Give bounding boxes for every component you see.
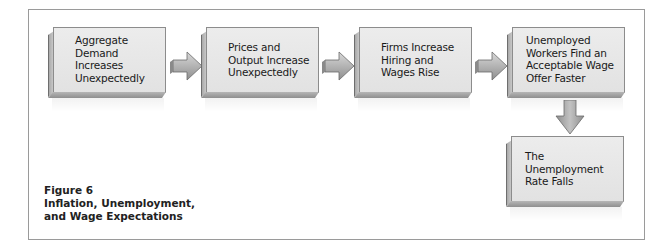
box-bottom-bevel (201, 92, 319, 98)
flow-box-unemployment-rate: The Unemployment Rate Falls (506, 136, 624, 207)
box-bottom-bevel (48, 92, 166, 98)
box-bottom-bevel (506, 201, 624, 207)
box-shadow (358, 98, 470, 112)
box-bottom-bevel (507, 92, 625, 98)
flow-box-unemployed-workers: Unemployed Workers Find an Acceptable Wa… (507, 27, 625, 98)
figure-title-line2: and Wage Expectations (44, 210, 195, 223)
box-label: Firms Increase Hiring and Wages Rise (381, 41, 468, 79)
box-label: Aggregate Demand Increases Unexpectedly (75, 34, 162, 84)
figure-title-line1: Inflation, Unemployment, (44, 197, 195, 210)
box-shadow (510, 207, 622, 221)
arrow-right-icon (475, 50, 509, 82)
flow-box-prices-output: Prices and Output Increase Unexpectedly (201, 27, 319, 98)
figure-caption: Figure 6 Inflation, Unemployment, and Wa… (44, 184, 195, 223)
arrow-down-icon (554, 100, 586, 136)
arrow-right-icon (322, 50, 356, 82)
box-shadow (52, 98, 164, 112)
box-label: Unemployed Workers Find an Acceptable Wa… (526, 34, 621, 84)
box-label: Prices and Output Increase Unexpectedly (228, 41, 315, 79)
box-shadow (205, 98, 317, 112)
box-label: The Unemployment Rate Falls (525, 150, 620, 188)
flow-box-firms-hiring: Firms Increase Hiring and Wages Rise (354, 27, 472, 98)
flow-box-aggregate-demand: Aggregate Demand Increases Unexpectedly (48, 27, 166, 98)
figure-number: Figure 6 (44, 184, 195, 197)
box-bottom-bevel (354, 92, 472, 98)
arrow-right-icon (170, 50, 204, 82)
